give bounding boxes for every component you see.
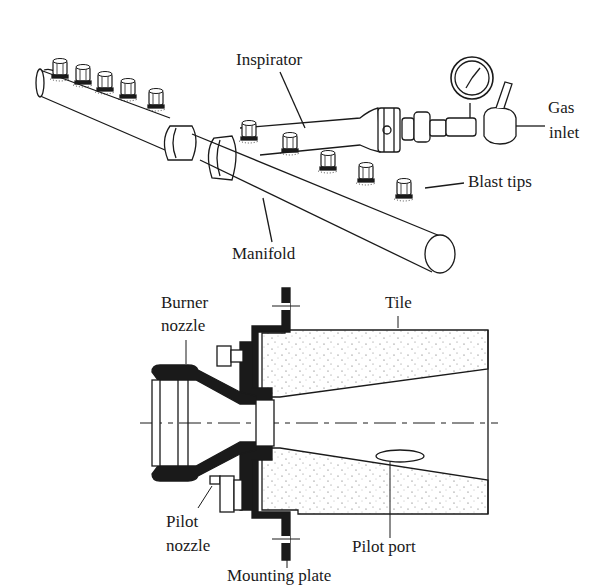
label-pilot-nozzle-line2: nozzle: [166, 536, 210, 556]
label-pilot-port: Pilot port: [352, 537, 416, 557]
label-gas-inlet-line1: Gas: [548, 98, 574, 118]
inspirator-leader: [280, 72, 305, 128]
blast-tips-left-row: [50, 59, 166, 112]
blast-tips-leader: [425, 183, 464, 188]
tile-upper: [262, 330, 488, 397]
label-inspirator: Inspirator: [236, 50, 302, 70]
label-gas-inlet-line2: inlet: [549, 123, 579, 143]
label-blast-tips: Blast tips: [468, 172, 532, 192]
label-tile: Tile: [385, 293, 412, 313]
pilot-nozzle-leader: [198, 486, 212, 508]
gas-train: [402, 57, 527, 144]
diagram-canvas: [0, 0, 613, 587]
inspirator-tube: [240, 108, 400, 155]
label-mounting-plate: Mounting plate: [227, 566, 331, 586]
pilot-nozzle: [210, 476, 242, 512]
label-burner-nozzle-line1: Burner: [161, 293, 208, 313]
manifold-burner-assembly: [36, 57, 545, 273]
label-pilot-nozzle-line1: Pilot: [166, 512, 198, 532]
tile-lower: [262, 448, 488, 514]
manifold-leader: [263, 198, 272, 242]
label-burner-nozzle-line2: nozzle: [161, 316, 205, 336]
pilot-port: [376, 450, 424, 462]
label-manifold: Manifold: [232, 244, 295, 264]
